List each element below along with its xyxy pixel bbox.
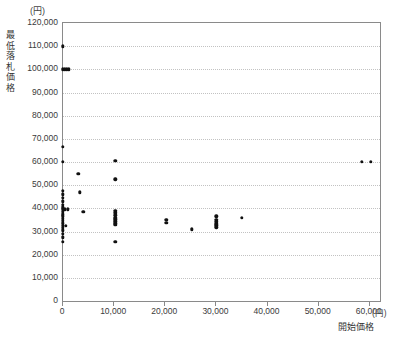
gridline	[63, 46, 380, 47]
data-point	[165, 221, 168, 224]
y-axis-tick-label: 10,000	[32, 272, 58, 282]
data-point	[61, 145, 64, 148]
gridline	[63, 93, 380, 94]
data-point	[113, 178, 116, 181]
data-point	[215, 226, 218, 229]
y-axis-tick-label: 30,000	[32, 226, 58, 236]
data-point	[61, 44, 64, 47]
x-axis-unit: (円)	[372, 306, 387, 318]
gridline	[63, 69, 380, 70]
y-axis-tick-label: 0	[53, 295, 58, 305]
gridline	[63, 255, 380, 256]
data-point	[61, 236, 64, 239]
gridline	[63, 139, 380, 140]
gridline	[63, 116, 380, 117]
y-axis-tick-label: 60,000	[32, 156, 58, 166]
x-axis-tick-label: 30,000	[202, 306, 228, 316]
x-axis-tick-label: 50,000	[305, 306, 331, 316]
y-axis-tick-labels: 010,00020,00030,00040,00050,00060,00070,…	[0, 22, 58, 302]
y-axis-tick-label: 80,000	[32, 110, 58, 120]
data-point	[77, 172, 80, 175]
data-point	[113, 223, 116, 226]
gridline	[63, 232, 380, 233]
data-point	[240, 216, 243, 219]
data-point	[67, 68, 70, 71]
y-axis-tick-label: 40,000	[32, 202, 58, 212]
gridline	[63, 278, 380, 279]
x-axis-tick-label: 10,000	[100, 306, 126, 316]
data-point	[190, 227, 193, 230]
y-axis-tick-label: 90,000	[32, 87, 58, 97]
data-point	[66, 208, 69, 211]
y-axis-tick-label: 50,000	[32, 179, 58, 189]
data-point	[78, 190, 81, 193]
data-point	[369, 160, 372, 163]
gridline	[63, 208, 380, 209]
x-axis-tick-label: 0	[60, 306, 65, 316]
data-point	[360, 160, 363, 163]
y-axis-unit: (円)	[30, 4, 45, 17]
y-axis-tick-label: 20,000	[32, 249, 58, 259]
y-axis-tick-label: 100,000	[27, 63, 58, 73]
gridline	[63, 162, 380, 163]
y-axis-tick-label: 110,000	[28, 40, 58, 50]
x-axis-tick-labels: 010,00020,00030,00040,00050,00060,000	[62, 306, 381, 320]
data-point	[113, 240, 116, 243]
scatter-chart: (円) 最低落札価格 010,00020,00030,00040,00050,0…	[0, 0, 409, 337]
plot-area	[62, 22, 381, 302]
data-point	[82, 210, 85, 213]
x-axis-title: 開始価格	[338, 320, 374, 333]
y-axis-tick-label: 120,000	[27, 17, 58, 27]
data-point	[64, 224, 67, 227]
data-point	[61, 160, 64, 163]
data-point	[61, 240, 64, 243]
x-axis-tick-label: 20,000	[151, 306, 177, 316]
x-axis-tick-label: 40,000	[254, 306, 280, 316]
y-axis-tick-label: 70,000	[32, 133, 58, 143]
gridline	[63, 185, 380, 186]
